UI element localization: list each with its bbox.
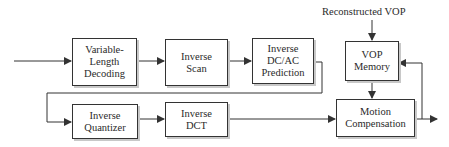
inverse-dct-block: Inverse DCT bbox=[165, 102, 228, 137]
motion-compensation-block: Motion Compensation bbox=[336, 99, 415, 137]
vop-memory-block: VOP Memory bbox=[345, 41, 399, 81]
variable-length-decoding-block: Variable- Length Decoding bbox=[72, 38, 137, 86]
inverse-scan-block: Inverse Scan bbox=[165, 39, 228, 86]
reconstructed-vop-label: Reconstructed VOP bbox=[322, 6, 406, 17]
decoder-block-diagram: Reconstructed VOP Variable- Length Decod… bbox=[0, 0, 449, 147]
inverse-quantizer-block: Inverse Quantizer bbox=[72, 104, 138, 139]
inverse-dcac-prediction-block: Inverse DC/AC Prediction bbox=[252, 38, 314, 84]
